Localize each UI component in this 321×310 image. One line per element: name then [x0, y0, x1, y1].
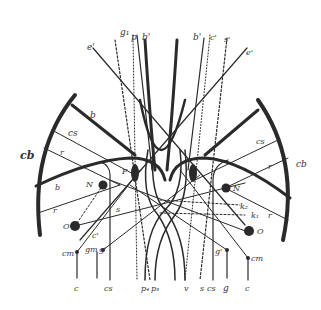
label-p: p [131, 32, 137, 42]
label-right-k1: k₁ [251, 211, 259, 220]
label-bottom-cs-right: cs [207, 284, 216, 293]
label-left-g-prime: g' [99, 245, 106, 254]
diagram-canvas: g₁ p b' b' c' s' e' e' cb b cs r b r N P… [0, 0, 321, 310]
label-left-O: O [63, 222, 70, 231]
label-bottom-v: v [184, 284, 189, 293]
label-left-c-prime: c' [92, 231, 99, 240]
nerve-pathway-diagram: g₁ p b' b' c' s' e' e' cb b cs r b r N P… [0, 0, 321, 310]
label-right-g-prime: g' [215, 247, 222, 256]
label-b-prime-left: b' [142, 32, 150, 42]
left-O-node [70, 221, 80, 231]
label-right-cm: cm [251, 254, 263, 263]
right-b-line [205, 110, 258, 155]
label-left-cs: cs [68, 128, 78, 138]
label-left-cb: cb [20, 149, 35, 162]
label-bottom-p4: p₄ [141, 284, 149, 293]
label-bottom-c-right: c [245, 284, 250, 293]
label-e-prime-right: e' [246, 48, 253, 57]
label-b-prime-right: b' [193, 32, 201, 42]
label-s-prime: s' [224, 35, 230, 44]
right-cm-node [246, 256, 250, 260]
label-c-prime: c' [210, 33, 217, 42]
label-right-cs: cs [256, 137, 265, 146]
label-left-gm: gm [85, 245, 98, 254]
label-left-r-lower: r [53, 206, 58, 215]
right-central-bprime [167, 40, 177, 170]
label-left-P: P [121, 167, 128, 176]
label-left-N: N [85, 180, 94, 189]
left-P-ganglion [131, 164, 139, 182]
cprime-solid-line [188, 38, 204, 170]
label-left-b-lower: b [55, 183, 60, 192]
label-left-b-upper: b [90, 110, 96, 120]
right-P-ganglion [189, 164, 197, 182]
label-bottom-g: g [223, 283, 229, 293]
right-b-lower-curve [170, 158, 290, 198]
label-right-k2: k₂ [240, 202, 248, 211]
left-N-node [99, 181, 108, 190]
label-right-cb: cb [296, 159, 307, 169]
right-cs-line [195, 140, 278, 180]
right-g-node [225, 248, 229, 252]
label-left-s: s [116, 205, 120, 214]
label-e-prime-left: e' [87, 42, 95, 52]
right-N-node [222, 184, 231, 193]
right-O-node [244, 226, 254, 236]
label-right-N: N [232, 184, 241, 193]
label-bottom-s: s [200, 284, 204, 293]
label-g1: g₁ [120, 27, 129, 37]
label-right-O: O [257, 227, 264, 236]
label-left-r-upper: r [60, 148, 65, 157]
label-bottom-cs-left: cs [104, 284, 113, 293]
left-cm-node [75, 250, 79, 254]
left-r-upper [44, 148, 120, 185]
label-bottom-p3: p₃ [151, 284, 159, 293]
label-right-r-upper: r [268, 162, 273, 171]
label-bottom-c-left: c [74, 284, 79, 293]
label-left-cm: cm [62, 249, 74, 258]
